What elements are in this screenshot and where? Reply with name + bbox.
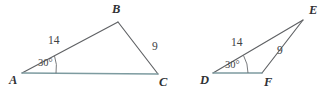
vertex-label-b: B [112, 3, 120, 16]
segment-ac [22, 73, 158, 74]
vertex-label-e: E [309, 4, 317, 17]
vertex-label-a: A [9, 74, 17, 87]
angle-arc-d [244, 56, 249, 74]
side-label-fe: 9 [277, 45, 283, 57]
side-label-bc: 9 [152, 41, 158, 53]
angle-label-d: 30° [225, 60, 240, 71]
side-label-de: 14 [231, 37, 243, 49]
angle-arc-a [55, 56, 57, 73]
side-label-ab: 14 [48, 35, 60, 47]
geometry-figure: A B C 14 9 30° D E F 14 9 30° [0, 0, 327, 95]
angle-label-a: 30° [38, 58, 53, 69]
vertex-label-f: F [264, 76, 272, 89]
segment-ab [22, 22, 118, 73]
vertex-label-d: D [200, 74, 209, 87]
vertex-label-c: C [159, 76, 167, 89]
